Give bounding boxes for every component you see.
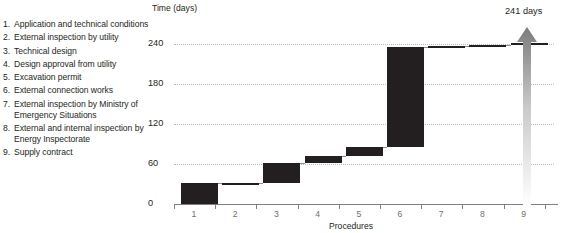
y-axis-tick-label: 60 [148, 158, 170, 168]
x-axis-tick [256, 204, 257, 209]
waterfall-connector [300, 163, 304, 164]
list-item-label: External inspection by utility [14, 32, 152, 43]
list-item-number: 2. [0, 32, 14, 43]
list-item: 2. External inspection by utility [0, 32, 152, 43]
list-item-label: Technical design [14, 46, 152, 57]
x-axis-tick [298, 204, 299, 209]
waterfall-bar [346, 147, 383, 156]
list-item-number: 8. [0, 123, 14, 134]
x-axis-tick [215, 204, 216, 209]
gridline [174, 84, 554, 85]
list-item-number: 5. [0, 72, 14, 83]
x-axis-tick [462, 204, 463, 209]
list-item-label: External inspection by Ministry of Emerg… [14, 99, 152, 121]
y-axis-tick-label: 120 [148, 118, 170, 128]
chart-plot-area: Time (days) 060120180240 123456789 Proce… [148, 0, 577, 233]
y-axis-tick-label: 180 [148, 78, 170, 88]
x-axis-tick [421, 204, 422, 209]
y-axis-tick-label: 240 [148, 38, 170, 48]
waterfall-connector [383, 147, 387, 148]
x-axis-tick-label: 3 [266, 209, 286, 219]
x-axis-line [174, 204, 558, 205]
list-item-number: 4. [0, 59, 14, 70]
list-item: 4. Design approval from utility [0, 59, 152, 70]
total-days-annotation: 241 days [505, 6, 542, 16]
up-arrow-icon [516, 27, 538, 209]
list-item-label: External and internal inspection by Ener… [14, 123, 152, 145]
waterfall-bar [305, 156, 342, 163]
list-item-label: Design approval from utility [14, 59, 152, 70]
list-item-label: External connection works [14, 85, 152, 96]
x-axis-tick-label: 1 [184, 209, 204, 219]
list-item: 3. Technical design [0, 46, 152, 57]
list-item: 7. External inspection by Ministry of Em… [0, 99, 152, 121]
list-item: 1. Application and technical conditions [0, 19, 152, 30]
x-axis-tick-label: 5 [349, 209, 369, 219]
y-axis-tick-label: 0 [148, 198, 170, 208]
gridline [174, 124, 554, 125]
waterfall-bar [428, 46, 465, 48]
x-axis-tick-label: 9 [514, 209, 534, 219]
waterfall-bar [387, 47, 424, 147]
list-item-number: 1. [0, 19, 14, 30]
waterfall-bar [181, 183, 218, 204]
list-item-label: Excavation permit [14, 72, 152, 83]
waterfall-connector [342, 156, 346, 157]
list-item-number: 6. [0, 85, 14, 96]
list-item-number: 3. [0, 46, 14, 57]
waterfall-bar [222, 183, 259, 185]
x-axis-tick-label: 2 [225, 209, 245, 219]
list-item: 6. External connection works [0, 85, 152, 96]
x-axis-tick [504, 204, 505, 209]
x-axis-tick-label: 7 [431, 209, 451, 219]
list-item: 5. Excavation permit [0, 72, 152, 83]
list-item: 8. External and internal inspection by E… [0, 123, 152, 145]
x-axis-tick [545, 204, 546, 209]
x-axis-tick [380, 204, 381, 209]
x-axis-tick-label: 4 [308, 209, 328, 219]
list-item-label: Supply contract [14, 147, 152, 158]
waterfall-bar [469, 45, 506, 47]
waterfall-connector [259, 183, 263, 184]
x-axis-tick [339, 204, 340, 209]
waterfall-connector [506, 45, 510, 46]
list-item-number: 9. [0, 147, 14, 158]
procedure-legend-list: 1. Application and technical conditions … [0, 19, 152, 161]
waterfall-bar [263, 163, 300, 183]
list-item-label: Application and technical conditions [14, 19, 152, 30]
x-axis-tick-label: 6 [390, 209, 410, 219]
list-item: 9. Supply contract [0, 147, 152, 158]
x-axis-tick [174, 204, 175, 209]
x-axis-tick-label: 8 [472, 209, 492, 219]
list-item-number: 7. [0, 99, 14, 110]
y-axis-title: Time (days) [152, 3, 197, 13]
x-axis-title: Procedures [148, 221, 554, 231]
waterfall-chart-figure: 1. Application and technical conditions … [0, 0, 577, 233]
gridline [174, 164, 554, 165]
